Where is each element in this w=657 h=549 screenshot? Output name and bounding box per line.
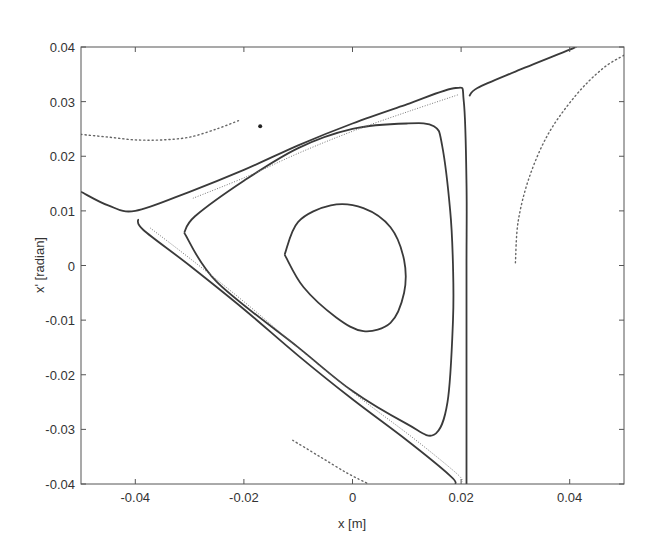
inner-orbit-curve <box>285 204 406 331</box>
plot-frame <box>81 47 624 484</box>
y-tick-label: 0.03 <box>50 95 75 110</box>
x-tick-label: 0.04 <box>557 490 582 505</box>
y-axis-label: x' [radian] <box>32 237 47 293</box>
x-tick-label: -0.02 <box>229 490 259 505</box>
x-tick-label: 0 <box>349 490 356 505</box>
dotted-right-curve <box>515 55 624 263</box>
y-tick-label: 0.02 <box>50 149 75 164</box>
separatrix-triangle-curve <box>138 219 456 484</box>
dotted-upper-left-curve <box>81 121 239 141</box>
x-axis-label: x [m] <box>338 516 366 531</box>
y-tick-label: 0.01 <box>50 204 75 219</box>
y-tick-label: 0 <box>68 259 75 274</box>
y-axis-ticks: 0.040.030.020.010-0.01-0.02-0.03-0.04 <box>45 40 624 492</box>
y-tick-label: 0.04 <box>50 40 75 55</box>
middle-orbit-curve <box>184 123 453 436</box>
separatrix-right-branch-curve <box>469 47 576 96</box>
phase-space-chart: -0.04-0.0200.020.04 0.040.030.020.010-0.… <box>0 0 657 549</box>
y-tick-label: -0.01 <box>45 313 75 328</box>
y-tick-label: -0.04 <box>45 477 75 492</box>
x-tick-label: -0.04 <box>120 490 150 505</box>
plot-curves <box>81 47 624 484</box>
y-tick-label: -0.02 <box>45 368 75 383</box>
data-point <box>258 124 262 128</box>
y-tick-label: -0.03 <box>45 422 75 437</box>
dotted-lower-curve <box>293 440 369 484</box>
x-axis-ticks: -0.04-0.0200.020.04 <box>120 47 582 505</box>
separatrix-trace-upper <box>193 95 459 199</box>
x-tick-label: 0.02 <box>448 490 473 505</box>
